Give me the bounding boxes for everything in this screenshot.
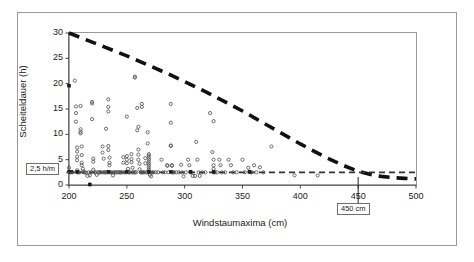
y-axis-title: Scheiteldauer (h) bbox=[17, 42, 28, 162]
data-point bbox=[144, 162, 147, 165]
data-point bbox=[270, 145, 273, 148]
data-point bbox=[212, 158, 215, 161]
data-point-highlight bbox=[169, 170, 172, 173]
data-point bbox=[91, 118, 94, 121]
data-point bbox=[258, 166, 261, 169]
data-point bbox=[137, 148, 140, 151]
x-tick-label: 200 bbox=[49, 191, 89, 201]
grenzkurve bbox=[69, 33, 416, 179]
data-point bbox=[195, 140, 198, 143]
data-point bbox=[107, 144, 110, 147]
data-point bbox=[80, 154, 83, 157]
data-point bbox=[73, 79, 76, 82]
data-point bbox=[241, 158, 244, 161]
data-point bbox=[188, 164, 191, 167]
data-point bbox=[182, 175, 185, 178]
data-point bbox=[136, 106, 139, 109]
data-point bbox=[101, 145, 104, 148]
data-point bbox=[125, 158, 128, 161]
data-point-highlight bbox=[212, 170, 215, 173]
data-point bbox=[80, 145, 83, 148]
x-tick-label: 450 bbox=[338, 191, 378, 201]
data-point bbox=[187, 158, 190, 161]
data-point-highlight bbox=[75, 170, 78, 173]
x-tick-label: 500 bbox=[396, 191, 436, 201]
data-point bbox=[75, 146, 78, 149]
data-point bbox=[169, 121, 172, 124]
data-point-highlight bbox=[67, 84, 70, 87]
data-point bbox=[212, 120, 215, 123]
crossing-callout: 450 cm bbox=[337, 203, 370, 215]
data-point bbox=[247, 166, 250, 169]
data-point bbox=[131, 166, 134, 169]
data-point bbox=[293, 174, 296, 177]
data-point bbox=[126, 167, 129, 170]
data-point bbox=[101, 151, 104, 154]
data-point bbox=[252, 164, 255, 167]
data-point-highlight bbox=[107, 170, 110, 173]
data-point bbox=[227, 158, 230, 161]
data-point bbox=[138, 162, 141, 165]
data-point bbox=[229, 164, 232, 167]
data-point bbox=[219, 164, 222, 167]
data-point bbox=[198, 174, 201, 177]
data-point bbox=[108, 156, 111, 159]
data-point bbox=[180, 163, 183, 166]
data-point bbox=[75, 150, 78, 153]
y-tick-label: 15 bbox=[27, 103, 63, 113]
data-point bbox=[79, 104, 82, 107]
reference-lines bbox=[69, 33, 416, 179]
data-point bbox=[122, 161, 125, 164]
data-point bbox=[144, 157, 147, 160]
data-point bbox=[209, 111, 212, 114]
data-point-highlight bbox=[189, 170, 192, 173]
y-tick-label: 0 bbox=[27, 179, 63, 189]
data-point bbox=[218, 158, 221, 161]
data-point bbox=[212, 167, 215, 170]
figure-root: 051015202530 200250300350400450500 Schei… bbox=[0, 0, 474, 262]
y-tick-label: 20 bbox=[27, 78, 63, 88]
data-point bbox=[107, 98, 110, 101]
data-point bbox=[169, 102, 172, 105]
data-point bbox=[122, 156, 125, 159]
threshold-callout: 2,5 h/m bbox=[26, 163, 59, 175]
x-tick-label: 300 bbox=[165, 191, 205, 201]
y-tick-label: 10 bbox=[27, 128, 63, 138]
y-tick-label: 25 bbox=[27, 52, 63, 62]
data-point bbox=[104, 127, 107, 130]
x-axis-title: Windstaumaxima (cm) bbox=[60, 217, 420, 228]
data-point bbox=[107, 110, 110, 113]
data-point-highlight bbox=[147, 170, 150, 173]
data-point bbox=[102, 157, 105, 160]
x-tick-label: 400 bbox=[280, 191, 320, 201]
data-point bbox=[74, 105, 77, 108]
data-point bbox=[146, 142, 149, 145]
data-point-highlight bbox=[248, 170, 251, 173]
data-point bbox=[137, 158, 140, 161]
x-tick-label: 250 bbox=[107, 191, 147, 201]
y-tick-label: 30 bbox=[27, 27, 63, 37]
data-point bbox=[255, 171, 258, 174]
data-point bbox=[196, 158, 199, 161]
scatter-points bbox=[67, 75, 319, 186]
data-point bbox=[235, 171, 238, 174]
data-point bbox=[211, 150, 214, 153]
data-point bbox=[107, 105, 110, 108]
data-point bbox=[75, 155, 78, 158]
data-point-highlight bbox=[88, 183, 91, 186]
data-point-highlight bbox=[70, 170, 73, 173]
data-point bbox=[146, 131, 149, 134]
data-point bbox=[160, 158, 163, 161]
data-point bbox=[75, 159, 78, 162]
data-point bbox=[316, 174, 319, 177]
data-point bbox=[125, 162, 128, 165]
data-point bbox=[130, 152, 133, 155]
data-point bbox=[74, 111, 77, 114]
data-point-highlight bbox=[125, 170, 128, 173]
data-point bbox=[137, 125, 140, 128]
x-tick-label: 350 bbox=[223, 191, 263, 201]
data-point bbox=[136, 129, 139, 132]
data-point bbox=[212, 164, 215, 167]
data-point bbox=[107, 148, 110, 151]
data-point bbox=[125, 155, 128, 158]
